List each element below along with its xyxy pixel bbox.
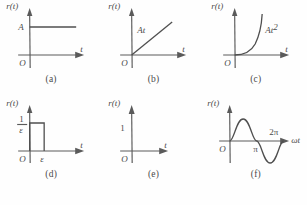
panel-a-ylabel: r(t) — [6, 1, 18, 11]
panel-b-caption: (b) — [102, 74, 204, 84]
y-axis-line — [229, 111, 230, 163]
y-axis-line — [132, 14, 133, 68]
impulse-arrowhead — [129, 105, 135, 114]
panel-f-xlabel: ωt — [291, 135, 300, 145]
panel-e-origin-label: O — [121, 154, 128, 164]
panel-c-curve-label: At2 — [264, 22, 278, 35]
panel-a-ytick-label: A — [17, 22, 24, 32]
y-axis-arrowhead — [227, 105, 232, 113]
panel-c-axes — [223, 8, 289, 68]
panel-c-plot: r(t) t At2 O — [205, 0, 307, 76]
panel-c-caption: (c) — [205, 74, 307, 84]
y-axis-arrowhead — [232, 8, 237, 16]
panel-f-caption: (f) — [205, 169, 307, 179]
panel-f-plot: r(t) ωt π 2π O — [205, 95, 307, 171]
panel-c-curve — [234, 14, 262, 55]
panel-d-caption: (d) — [0, 169, 102, 179]
panel-f-xtick-2pi: 2π — [269, 127, 279, 137]
panel-d-ylabel: r(t) — [6, 98, 18, 108]
panel-a: r(t) t A O (a) — [0, 0, 102, 95]
panel-d-xlabel: t — [80, 140, 83, 150]
panel-c-origin-label: O — [224, 58, 231, 68]
panel-a-origin-label: O — [19, 58, 26, 68]
panel-b-xlabel: t — [182, 44, 185, 54]
panel-a-plot: r(t) t A O — [0, 0, 102, 76]
figure-root: r(t) t A O (a) r(t) — [0, 0, 307, 205]
panel-c-xlabel: t — [285, 44, 288, 54]
panel-d-origin-label: O — [19, 154, 26, 164]
y-axis-arrowhead — [27, 8, 32, 16]
panel-a-xlabel: t — [80, 44, 83, 54]
panel-b-ylabel: r(t) — [108, 1, 120, 11]
panel-a-caption: (a) — [0, 74, 102, 84]
panel-d-ytick-numerator: 1 — [19, 114, 24, 124]
panel-c: r(t) t At2 O (c) — [205, 0, 307, 95]
panel-e-ylabel: r(t) — [108, 98, 120, 108]
panel-d-plot: r(t) t 1 ε O ε — [0, 95, 102, 171]
panel-c-curve-label-exponent: 2 — [273, 22, 278, 32]
panel-d-curve — [30, 123, 45, 151]
panel-d-ytick-fraction: 1 ε — [17, 114, 27, 135]
panel-f-ylabel: r(t) — [207, 98, 219, 108]
panel-f: r(t) ωt π 2π O (f) — [205, 95, 307, 190]
panel-e-plot: r(t) t 1 O — [102, 95, 204, 171]
panel-a-axes — [18, 8, 84, 68]
panel-d: r(t) t 1 ε O ε (d) — [0, 95, 102, 190]
y-axis-arrowhead — [129, 8, 134, 16]
panel-e-caption: (e) — [102, 169, 204, 179]
panel-f-axes — [219, 105, 289, 163]
panel-grid: r(t) t A O (a) r(t) — [0, 0, 307, 190]
y-axis-arrowhead — [27, 105, 32, 113]
panel-d-ytick-denominator: ε — [19, 125, 23, 135]
panel-c-ylabel: r(t) — [211, 1, 223, 11]
panel-b-origin-label: O — [121, 58, 128, 68]
panel-f-origin-label: O — [219, 144, 226, 154]
panel-b: r(t) t At O (b) — [102, 0, 204, 95]
panel-e-impulse-label: 1 — [120, 123, 125, 133]
panel-e-xlabel: t — [164, 140, 167, 150]
panel-b-curve-label: At — [136, 25, 145, 35]
panel-f-xtick-pi: π — [253, 144, 258, 154]
panel-d-xtick-label: ε — [40, 154, 44, 164]
panel-b-plot: r(t) t At O — [102, 0, 204, 76]
y-axis-line — [132, 111, 133, 163]
panel-e: r(t) t 1 O (e) — [102, 95, 204, 190]
panel-d-axes — [18, 105, 84, 163]
y-axis-line — [234, 14, 235, 68]
y-axis-line — [30, 14, 31, 68]
